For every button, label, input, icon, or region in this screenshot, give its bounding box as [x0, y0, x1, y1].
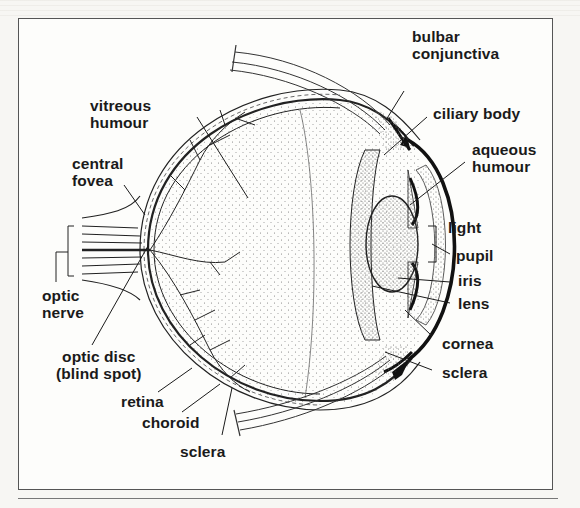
label-line: bulbar — [412, 28, 499, 45]
label-ciliary-body: ciliary body — [433, 105, 520, 122]
label-light: light — [448, 219, 481, 236]
label-line: conjunctiva — [412, 45, 499, 62]
label-vitreous-humour: vitreous humour — [90, 97, 151, 131]
label-line: vitreous — [90, 97, 151, 114]
label-line: central — [72, 155, 124, 172]
label-optic-disc: optic disc (blind spot) — [56, 348, 142, 382]
label-line: choroid — [142, 414, 200, 431]
label-line: pupil — [456, 247, 494, 264]
label-line: light — [448, 219, 481, 236]
label-retina: retina — [121, 393, 164, 410]
label-line: nerve — [42, 304, 84, 321]
label-line: sclera — [442, 364, 487, 381]
label-lens: lens — [458, 295, 489, 312]
label-line: aqueous — [472, 141, 536, 158]
optic-nerve-drawing — [56, 196, 150, 300]
label-line: optic — [42, 287, 84, 304]
label-pupil: pupil — [456, 247, 494, 264]
label-iris: iris — [458, 272, 482, 289]
label-sclera-bottom: sclera — [180, 443, 225, 460]
label-line: lens — [458, 295, 489, 312]
label-bulbar-conjunctiva: bulbar conjunctiva — [412, 28, 499, 62]
label-optic-nerve: optic nerve — [42, 287, 84, 321]
label-line: humour — [90, 114, 151, 131]
label-sclera-right: sclera — [442, 364, 487, 381]
label-choroid: choroid — [142, 414, 200, 431]
label-cornea: cornea — [442, 335, 493, 352]
label-line: cornea — [442, 335, 493, 352]
label-line: optic disc — [56, 348, 142, 365]
label-line: ciliary body — [433, 105, 520, 122]
label-line: iris — [458, 272, 482, 289]
label-line: fovea — [72, 172, 124, 189]
label-line: sclera — [180, 443, 225, 460]
label-line: humour — [472, 158, 536, 175]
label-central-fovea: central fovea — [72, 155, 124, 189]
label-aqueous-humour: aqueous humour — [472, 141, 536, 175]
label-line: retina — [121, 393, 164, 410]
label-line: (blind spot) — [56, 365, 142, 382]
